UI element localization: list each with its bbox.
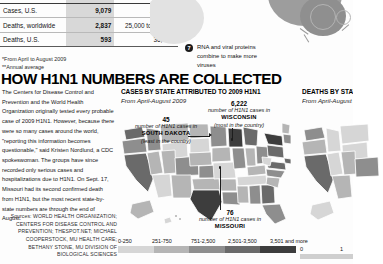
state-hawaii	[164, 217, 172, 224]
virus-ring-icon	[310, 4, 336, 30]
legend-gradient-bar	[118, 246, 296, 253]
leader-arrow-south-dakota	[209, 133, 212, 137]
leader-dot-missouri	[219, 166, 222, 169]
legend-swatch-1	[154, 246, 190, 253]
page-title: HOW H1N1 NUMBERS ARE COLLECTED	[1, 70, 281, 87]
legend-label-0: 0-250	[118, 238, 132, 244]
deaths-panel-heading: DEATHS BY STATE From April-August 2009	[302, 88, 353, 104]
state-utah	[161, 150, 176, 174]
callout-state-name: MISSOURI	[184, 223, 276, 231]
state-mississippi	[237, 186, 249, 203]
us-deaths-choropleth-map	[300, 120, 383, 232]
state-new-york	[264, 133, 283, 146]
state-arkansas	[220, 179, 237, 191]
callout-state-name: WISCONSIN	[196, 114, 282, 122]
hawaii-dot-icon	[179, 218, 181, 220]
virus-step-7-callout: 7 RNA and viral proteins combine to make…	[185, 43, 265, 70]
callout-caption-bottom: (most in the country)	[196, 122, 282, 129]
state-west-virginia	[262, 157, 272, 166]
deaths-state-alaska	[310, 201, 334, 220]
legend-label-3: 2,501-3,500	[228, 238, 257, 244]
legend-labels: 0-250 251-750 751-2,500 2,501-3,500 3,50…	[118, 238, 298, 246]
deaths-title: DEATHS BY STATE	[302, 88, 353, 95]
hawaii-dot-icon	[175, 215, 177, 217]
legend-label-2: 751-2,500	[191, 238, 215, 244]
row-h1n1-value: 9,079	[66, 4, 114, 18]
axis-tick-0: 0	[300, 246, 303, 252]
map-legend: 0-250 251-750 751-2,500 2,501-3,500 3,50…	[118, 238, 298, 253]
legend-swatch-0	[118, 246, 154, 253]
row-label: Deaths, worldwide	[0, 18, 66, 32]
callout-state-name: SOUTH DAKOTA	[123, 130, 209, 138]
row-h1n1-value: 593	[66, 32, 114, 46]
legend-swatch-4	[260, 246, 296, 253]
leader-line-missouri	[220, 168, 221, 210]
state-missouri	[213, 162, 236, 179]
row-label: Cases, U.S.	[0, 4, 66, 18]
virus-spike-icon	[304, 34, 310, 42]
legend-label-1: 251-750	[152, 238, 172, 244]
leader-line-south-dakota	[188, 136, 210, 137]
step-description: RNA and viral proteins combine to make m…	[197, 43, 265, 70]
virus-ring-icon	[336, 10, 351, 25]
axis-tick-1: 1	[340, 246, 343, 252]
legend-swatch-3	[225, 246, 261, 253]
state-new-mexico	[171, 175, 192, 198]
table-footnote-1: *From April to August 2009	[2, 56, 66, 63]
deaths-subtitle: From April-August 2009	[302, 97, 353, 104]
state-tennessee	[237, 175, 267, 186]
state-new-england	[283, 134, 291, 144]
callout-caption-bottom: (least in the country)	[123, 138, 209, 145]
sources-credit: Sources: WORLD HEALTH ORGANIZATION; CENT…	[2, 213, 117, 259]
callout-caption-top: number of H1N1 cases in	[196, 107, 282, 114]
state-iowa	[212, 147, 231, 162]
leader-dot-wisconsin	[231, 138, 234, 141]
row-label: Deaths, U.S.	[0, 32, 66, 46]
callout-caption-top: number of H1N1 cases in	[184, 216, 276, 223]
state-arizona	[152, 174, 172, 198]
step-number-badge: 7	[185, 44, 193, 52]
callout-missouri: 76 number of H1N1 cases in MISSOURI	[184, 209, 276, 231]
state-nebraska	[189, 152, 212, 166]
state-indiana	[245, 148, 256, 166]
state-maine	[282, 123, 290, 134]
state-alabama	[249, 185, 261, 204]
state-oklahoma	[192, 178, 220, 190]
deaths-map-svg	[300, 120, 383, 232]
row-h1n1-value: 2,837	[66, 18, 114, 32]
deaths-state-washington	[304, 127, 325, 141]
state-illinois	[232, 148, 246, 169]
state-north-carolina	[266, 169, 285, 178]
state-michigan	[243, 127, 258, 146]
callout-value: 6,222	[196, 100, 282, 107]
legend-swatch-2	[189, 246, 225, 253]
legend-label-4: 3,501 and more	[270, 238, 308, 244]
map-title: CASES BY STATE ATTRIBUTED TO 2009 H1N1	[121, 88, 260, 95]
deaths-state-idaho	[326, 128, 341, 152]
deaths-state-montana	[340, 124, 369, 144]
state-kentucky	[247, 165, 266, 176]
state-pennsylvania	[267, 145, 284, 158]
deaths-state-utah	[341, 151, 356, 175]
state-maryland-delaware	[284, 158, 291, 164]
legend-divider	[300, 254, 353, 259]
state-alaska	[130, 200, 154, 219]
deaths-state-arizona	[332, 175, 352, 199]
callout-value: 76	[184, 209, 276, 216]
state-georgia	[261, 185, 275, 204]
deaths-state-oregon	[302, 139, 327, 155]
deaths-state-colorado	[355, 157, 379, 177]
callout-wisconsin: 6,222 number of H1N1 cases in WISCONSIN …	[196, 100, 282, 130]
article-body-text: The Centers for Disease Control and Prev…	[2, 88, 115, 224]
virus-blob-faint	[150, 0, 204, 44]
